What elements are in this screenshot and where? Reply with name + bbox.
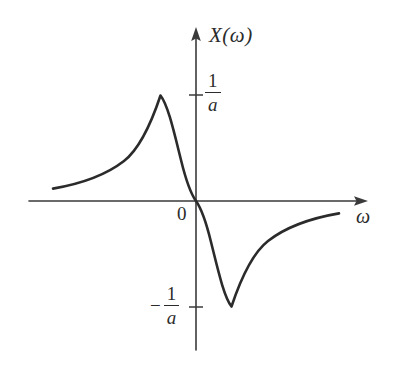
origin-label: 0: [177, 204, 187, 223]
reactance-plot-figure: X(ω) ω 0 1 a − 1 a: [0, 0, 397, 366]
positive-amplitude-denominator: a: [205, 94, 221, 114]
plot-canvas: [0, 0, 397, 366]
negative-amplitude-label: − 1 a: [150, 284, 179, 327]
negative-amplitude-numerator: 1: [164, 284, 180, 304]
positive-amplitude-label: 1 a: [205, 71, 221, 114]
fraction-bar: [164, 305, 180, 306]
fraction-bar: [205, 92, 221, 93]
negative-amplitude-denominator: a: [164, 307, 180, 327]
negative-amplitude-sign: −: [150, 295, 161, 317]
y-axis: [191, 27, 201, 350]
x-axis-label: ω: [356, 206, 370, 226]
negative-amplitude-fraction: 1 a: [164, 284, 180, 327]
y-axis-label: X(ω): [209, 25, 253, 46]
positive-amplitude-numerator: 1: [205, 71, 221, 91]
